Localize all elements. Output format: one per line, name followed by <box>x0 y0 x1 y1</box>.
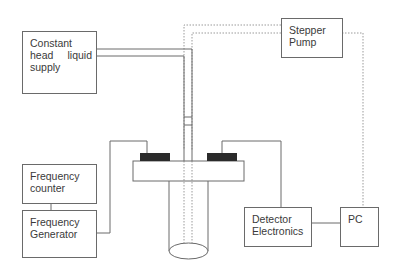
pipe-inner-wall <box>96 56 184 161</box>
frequency-generator-label-line1: Frequency <box>30 216 80 228</box>
flow-tube <box>169 181 208 259</box>
stepper-pump-label-line2: Pump <box>289 36 316 48</box>
frequency-generator-label-line2: Generator <box>30 228 77 240</box>
frequency-counter-label-line1: Frequency <box>30 170 80 182</box>
stepper-pump-label-line1: Stepper <box>289 24 326 36</box>
constant-head-label-word-head: head <box>30 49 53 61</box>
detector-electronics-label-line2: Electronics <box>252 225 303 237</box>
constant-head-label-word-liquid: liquid <box>67 49 92 61</box>
diagram-canvas: Constant head liquid supply Stepper Pump… <box>0 0 398 275</box>
left-transducer-pad <box>140 153 170 161</box>
pc-label: PC <box>348 213 363 225</box>
right-transducer-pad <box>207 153 237 161</box>
detector-electronics-label-line1: Detector <box>252 213 292 225</box>
generator-to-left-pad-wire <box>96 141 147 233</box>
constant-head-label-line2: head liquid <box>30 49 92 61</box>
tube-bottom-ellipse <box>169 243 208 259</box>
constant-head-label-line3: supply <box>30 61 60 73</box>
frequency-counter-label-line2: counter <box>30 182 65 194</box>
pump-line-inner <box>192 33 281 150</box>
right-pad-to-detector-wire <box>222 141 281 207</box>
pump-to-pc-line <box>342 33 363 207</box>
constant-head-label-line1: Constant <box>30 37 72 49</box>
cell-platform <box>133 161 244 181</box>
pump-line-outer <box>184 25 281 150</box>
tube-inner-dashed <box>184 161 192 244</box>
